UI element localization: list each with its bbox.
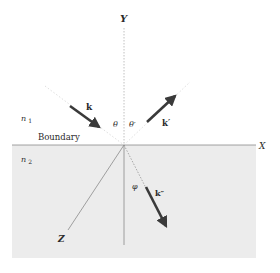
incident-k-arrow (70, 106, 99, 127)
phi-refraction-label: φ (132, 182, 138, 191)
reflected-k-prime-label: k′ (162, 118, 171, 128)
n1-label: n1 (21, 114, 32, 124)
reflection-refraction-diagram: Y X Z n1 Boundary n2 k k′ k″ θ θ′ φ (0, 0, 280, 273)
theta-incidence-label: θ (113, 120, 118, 129)
theta-prime-reflection-label: θ′ (129, 120, 136, 129)
n2-subscript: 2 (28, 158, 32, 165)
x-axis-label: X (258, 141, 266, 151)
z-axis-label: Z (57, 234, 65, 244)
y-axis-label: Y (120, 13, 128, 24)
reflected-k-prime-arrow (147, 96, 175, 122)
incident-k-label: k (86, 102, 93, 112)
boundary-label: Boundary (38, 132, 80, 142)
n1-subscript: 1 (28, 117, 32, 124)
n1-base: n (21, 114, 26, 123)
lower-medium-region (12, 145, 256, 258)
transmitted-k-double-prime-label: k″ (155, 188, 165, 198)
n2-base: n (21, 155, 26, 164)
